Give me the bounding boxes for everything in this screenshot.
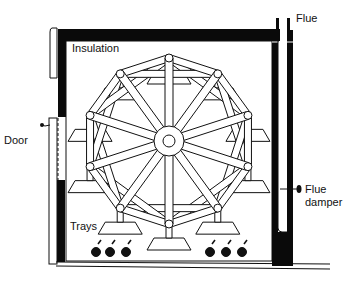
label-trays: Trays [70,220,97,232]
label-flue: Flue [296,12,317,24]
burner-group-right [206,240,248,257]
label-door: Door [4,134,28,146]
oven-cross-section [0,0,358,283]
oven-diagram: Insulation Flue Door Flue damper Trays [0,0,358,283]
reel-wheel [68,54,270,250]
label-flue-damper-2: damper [305,196,342,208]
label-flue-damper-1: Flue [305,183,326,195]
label-insulation: Insulation [72,42,119,54]
burner-group-left [92,240,132,257]
